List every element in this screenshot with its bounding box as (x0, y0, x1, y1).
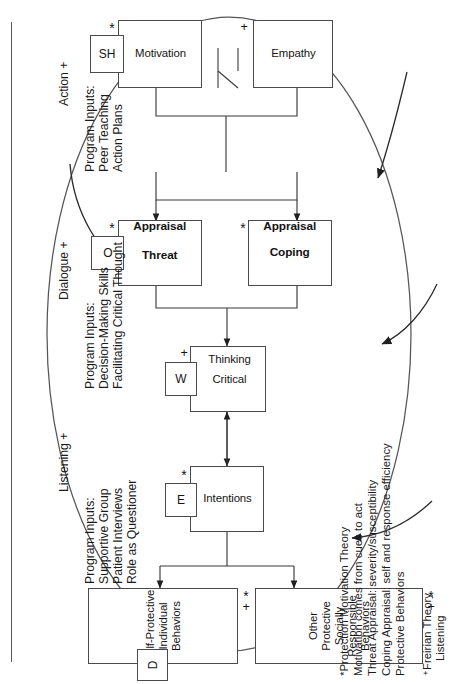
stage-listening-input-2: Role as Questioner (125, 480, 139, 584)
box-label-line2: Individual (157, 602, 170, 649)
box-motivation[interactable]: Motivation (118, 20, 202, 88)
box-critical-thinking[interactable]: Critical Thinking (190, 346, 266, 412)
box-threat-appraisal[interactable]: Threat Appraisal (118, 220, 202, 286)
action-arc (352, 501, 432, 538)
box-label-line1: Coping (270, 246, 310, 259)
mark-star-threat-appraisal: * (109, 221, 114, 235)
tag-d[interactable]: D (137, 649, 168, 681)
stage-dialogue-inputs-header: Program Inputs: (83, 302, 97, 389)
box-coping-appraisal[interactable]: Coping Appraisal (248, 220, 332, 286)
footnote-a-1: Motivation comes from cues to act (352, 503, 364, 676)
box-label-line1: Other Protective (307, 589, 333, 663)
tag-e-label: E (177, 493, 185, 507)
tag-w[interactable]: W (165, 362, 197, 396)
stage-dialogue-input-0: Decision-Making Skills (97, 267, 111, 389)
mark-star-motivation: * (109, 21, 114, 35)
stage-listening-label: Listening + (57, 433, 71, 492)
box-label-line1: Threat (142, 249, 177, 262)
stage-action-group: Action + (57, 62, 71, 106)
box-label: Empathy (271, 48, 315, 61)
mark-plus-self-protective: + (243, 601, 250, 614)
stage-action-label: Action + (57, 62, 71, 106)
footnote-a-0: *Protection Motivation Theory (338, 527, 350, 676)
stage-listening-input-0: Supportive Group (97, 488, 111, 584)
stage-listening-input-1: Patient Interviews (111, 488, 125, 584)
dialogue-arc (382, 284, 437, 344)
box-empathy[interactable]: Empathy (253, 20, 333, 88)
box-label-line2: Appraisal (263, 220, 316, 233)
box-label: Motivation (135, 48, 186, 61)
mark-plus-critical-thinking: + (181, 347, 188, 360)
box-label-line1: Critical (212, 373, 246, 386)
footnote-a-4: Protective Behaviors (394, 572, 406, 676)
mark-plus-motivation-empathy: + (241, 21, 248, 34)
listening-arc (378, 72, 407, 178)
stage-action-inputs-header: Program Inputs: (83, 85, 97, 172)
box-intentions[interactable]: Intentions (190, 466, 264, 532)
footnote-a-3: Coping Appraisal: self and response effi… (380, 443, 392, 676)
box-label-line2: Thinking (208, 353, 250, 366)
box-label-line3: Behaviors (170, 601, 183, 651)
box-label: Intentions (203, 493, 251, 506)
tag-d-label: D (146, 661, 160, 670)
tag-sh-label: SH (99, 47, 116, 61)
stage-listening-inputs-header: Program Inputs: (83, 497, 97, 584)
tag-e[interactable]: E (165, 483, 197, 517)
page-canvas: Self-Protective Individual Behaviors D *… (0, 0, 450, 684)
stage-action-input-0: Peer Teaching (97, 94, 111, 172)
footnote-b-1: Listening (434, 615, 446, 661)
stage-dialogue-label: Dialogue + (57, 241, 71, 300)
footnote-b-0: ⁺Freirian Theory (420, 593, 434, 676)
tag-w-label: W (175, 372, 186, 386)
footnote-a-2: Threat Appraisal: severity/susceptibilit… (366, 480, 378, 676)
mark-star-intentions: * (181, 468, 186, 482)
tag-sh[interactable]: SH (90, 35, 124, 73)
stage-dialogue-input-1: Facilitating Critical Thought (111, 242, 125, 389)
stage-action-input-1: Action Plans (111, 104, 125, 172)
box-label-line2: Appraisal (133, 220, 186, 233)
mark-star-coping-appraisal: * (240, 221, 245, 235)
